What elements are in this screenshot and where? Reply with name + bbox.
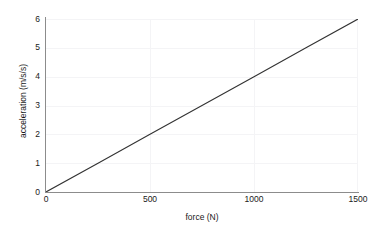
chart-figure: 0 1 2 3 4 5 6 0 500 1000 1500 force (N) …	[0, 0, 386, 234]
y-axis-line	[45, 17, 46, 193]
x-tick-label-1000: 1000	[234, 195, 274, 204]
x-tick-label-500: 500	[130, 195, 170, 204]
data-series-line	[46, 19, 358, 192]
x-axis-title: force (N)	[46, 212, 358, 222]
x-tick-label-1500: 1500	[338, 195, 378, 204]
horizontal-gridlines	[46, 20, 358, 164]
plot-svg	[46, 19, 358, 192]
vertical-gridlines	[151, 19, 358, 192]
y-axis-title: acceleration (m/s/s)	[18, 41, 28, 161]
y-tick-label-6: 6	[24, 15, 40, 24]
plot-area	[46, 19, 358, 192]
x-axis-line	[45, 192, 359, 193]
x-tick-label-0: 0	[26, 195, 66, 204]
